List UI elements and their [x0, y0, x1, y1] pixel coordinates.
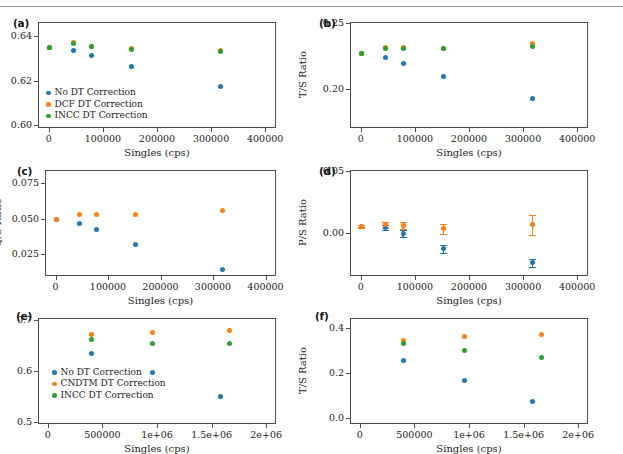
xtick-label: 2e+06 — [538, 429, 618, 440]
panel-f: (f)05000001e+061.5e+062e+060.00.20.4Sing… — [0, 10, 623, 447]
plot-area-f — [350, 318, 588, 424]
ytick-mark — [346, 328, 350, 329]
data-point — [539, 355, 544, 360]
ytick-mark — [346, 418, 350, 419]
data-point — [530, 399, 535, 404]
top-horizontal-rule — [0, 6, 623, 7]
xtick-mark — [360, 424, 361, 428]
x-axis-label: Singles (cps) — [350, 443, 588, 454]
xtick-mark — [578, 424, 579, 428]
ytick-mark — [346, 373, 350, 374]
ytick-label: 0.0 — [288, 412, 344, 423]
figure-canvas: (a)01000002000003000004000000.600.620.64… — [0, 10, 623, 447]
xtick-mark — [469, 424, 470, 428]
data-point — [401, 358, 406, 363]
ytick-label: 0.4 — [288, 322, 344, 333]
data-point — [539, 332, 544, 337]
data-point — [462, 348, 467, 353]
xtick-mark — [414, 424, 415, 428]
y-axis-label: T/S Ratio — [297, 341, 308, 401]
xtick-mark — [524, 424, 525, 428]
panel-label-f: (f) — [315, 310, 329, 322]
